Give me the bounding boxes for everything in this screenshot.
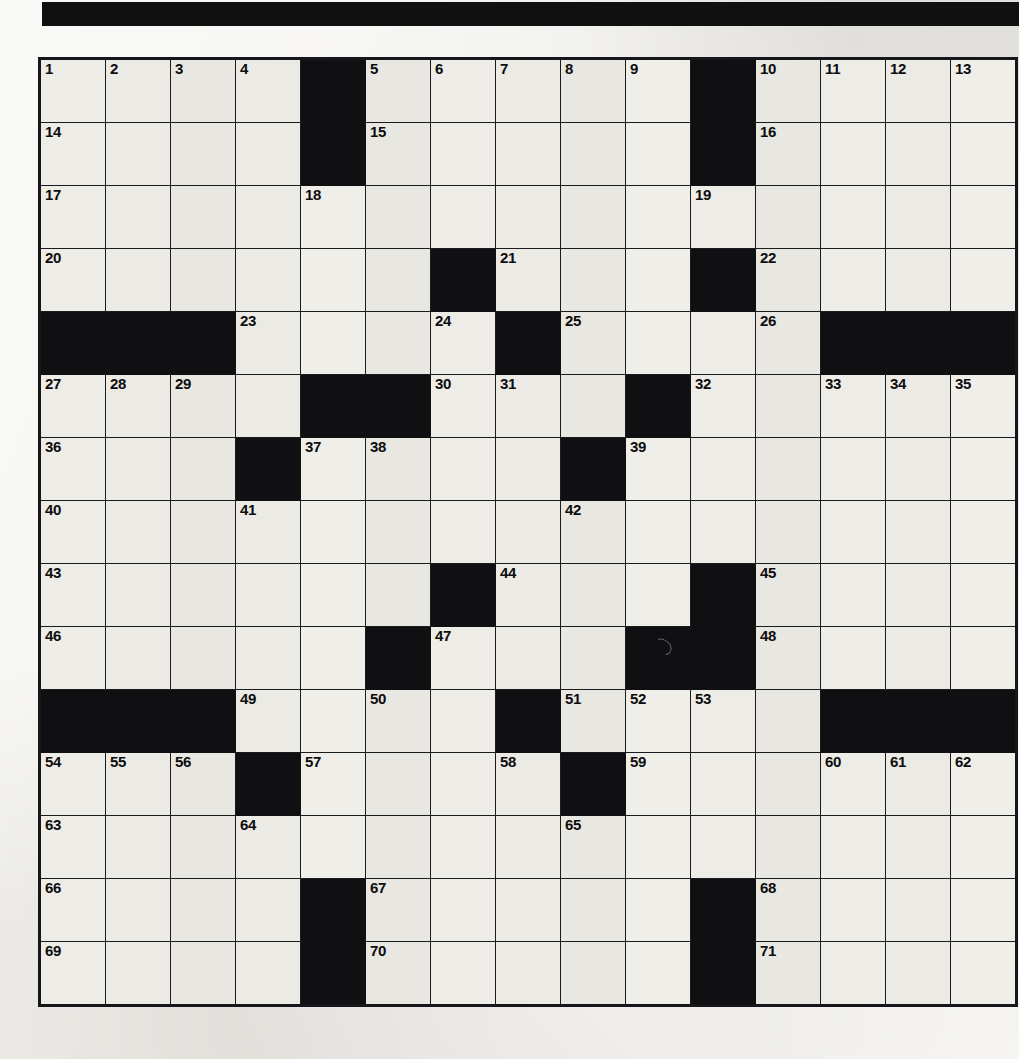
letter-cell[interactable] bbox=[171, 627, 236, 690]
letter-cell[interactable] bbox=[626, 879, 691, 942]
letter-cell[interactable] bbox=[106, 816, 171, 879]
letter-cell[interactable] bbox=[236, 375, 301, 438]
letter-cell[interactable] bbox=[106, 249, 171, 312]
letter-cell[interactable] bbox=[886, 879, 951, 942]
letter-cell[interactable]: 4 bbox=[236, 59, 301, 123]
letter-cell[interactable] bbox=[626, 249, 691, 312]
letter-cell[interactable] bbox=[171, 564, 236, 627]
letter-cell[interactable] bbox=[496, 186, 561, 249]
letter-cell[interactable]: 32 bbox=[691, 375, 756, 438]
letter-cell[interactable]: 5 bbox=[366, 59, 431, 123]
letter-cell[interactable] bbox=[951, 627, 1017, 690]
letter-cell[interactable] bbox=[171, 816, 236, 879]
letter-cell[interactable]: 71 bbox=[756, 942, 821, 1006]
letter-cell[interactable]: 18 bbox=[301, 186, 366, 249]
letter-cell[interactable] bbox=[431, 501, 496, 564]
letter-cell[interactable]: 63 bbox=[40, 816, 106, 879]
letter-cell[interactable] bbox=[106, 501, 171, 564]
letter-cell[interactable]: 24 bbox=[431, 312, 496, 375]
letter-cell[interactable] bbox=[366, 564, 431, 627]
letter-cell[interactable]: 1 bbox=[40, 59, 106, 123]
letter-cell[interactable] bbox=[821, 249, 886, 312]
letter-cell[interactable] bbox=[106, 942, 171, 1006]
letter-cell[interactable]: 31 bbox=[496, 375, 561, 438]
letter-cell[interactable]: 56 bbox=[171, 753, 236, 816]
letter-cell[interactable] bbox=[301, 564, 366, 627]
letter-cell[interactable]: 28 bbox=[106, 375, 171, 438]
letter-cell[interactable]: 34 bbox=[886, 375, 951, 438]
letter-cell[interactable] bbox=[886, 942, 951, 1006]
letter-cell[interactable] bbox=[561, 879, 626, 942]
letter-cell[interactable] bbox=[366, 753, 431, 816]
letter-cell[interactable] bbox=[821, 879, 886, 942]
letter-cell[interactable] bbox=[886, 123, 951, 186]
letter-cell[interactable] bbox=[756, 501, 821, 564]
letter-cell[interactable]: 59 bbox=[626, 753, 691, 816]
letter-cell[interactable]: 49 bbox=[236, 690, 301, 753]
letter-cell[interactable]: 69 bbox=[40, 942, 106, 1006]
letter-cell[interactable] bbox=[821, 816, 886, 879]
letter-cell[interactable] bbox=[626, 816, 691, 879]
letter-cell[interactable] bbox=[171, 879, 236, 942]
letter-cell[interactable] bbox=[691, 816, 756, 879]
letter-cell[interactable]: 9 bbox=[626, 59, 691, 123]
letter-cell[interactable]: 26 bbox=[756, 312, 821, 375]
letter-cell[interactable] bbox=[366, 186, 431, 249]
letter-cell[interactable]: 10 bbox=[756, 59, 821, 123]
letter-cell[interactable] bbox=[886, 627, 951, 690]
letter-cell[interactable]: 17 bbox=[40, 186, 106, 249]
letter-cell[interactable] bbox=[756, 438, 821, 501]
letter-cell[interactable]: 11 bbox=[821, 59, 886, 123]
letter-cell[interactable]: 61 bbox=[886, 753, 951, 816]
letter-cell[interactable] bbox=[496, 942, 561, 1006]
letter-cell[interactable]: 70 bbox=[366, 942, 431, 1006]
letter-cell[interactable] bbox=[561, 627, 626, 690]
letter-cell[interactable] bbox=[301, 312, 366, 375]
letter-cell[interactable] bbox=[951, 186, 1017, 249]
letter-cell[interactable] bbox=[626, 186, 691, 249]
letter-cell[interactable] bbox=[691, 501, 756, 564]
letter-cell[interactable] bbox=[106, 879, 171, 942]
letter-cell[interactable] bbox=[431, 123, 496, 186]
letter-cell[interactable] bbox=[756, 816, 821, 879]
letter-cell[interactable]: 21 bbox=[496, 249, 561, 312]
letter-cell[interactable] bbox=[886, 438, 951, 501]
letter-cell[interactable] bbox=[561, 564, 626, 627]
letter-cell[interactable]: 25 bbox=[561, 312, 626, 375]
letter-cell[interactable]: 46 bbox=[40, 627, 106, 690]
letter-cell[interactable]: 8 bbox=[561, 59, 626, 123]
letter-cell[interactable]: 16 bbox=[756, 123, 821, 186]
letter-cell[interactable]: 57 bbox=[301, 753, 366, 816]
letter-cell[interactable] bbox=[431, 753, 496, 816]
letter-cell[interactable] bbox=[496, 627, 561, 690]
letter-cell[interactable] bbox=[951, 501, 1017, 564]
letter-cell[interactable] bbox=[626, 564, 691, 627]
letter-cell[interactable] bbox=[431, 879, 496, 942]
letter-cell[interactable]: 37 bbox=[301, 438, 366, 501]
letter-cell[interactable] bbox=[106, 438, 171, 501]
letter-cell[interactable] bbox=[626, 942, 691, 1006]
letter-cell[interactable]: 68 bbox=[756, 879, 821, 942]
letter-cell[interactable]: 65 bbox=[561, 816, 626, 879]
letter-cell[interactable]: 27 bbox=[40, 375, 106, 438]
letter-cell[interactable] bbox=[301, 249, 366, 312]
letter-cell[interactable] bbox=[626, 312, 691, 375]
letter-cell[interactable] bbox=[301, 690, 366, 753]
letter-cell[interactable] bbox=[821, 501, 886, 564]
letter-cell[interactable] bbox=[236, 942, 301, 1006]
letter-cell[interactable]: 52 bbox=[626, 690, 691, 753]
letter-cell[interactable]: 53 bbox=[691, 690, 756, 753]
letter-cell[interactable] bbox=[496, 501, 561, 564]
letter-cell[interactable]: 60 bbox=[821, 753, 886, 816]
letter-cell[interactable] bbox=[366, 501, 431, 564]
letter-cell[interactable]: 58 bbox=[496, 753, 561, 816]
letter-cell[interactable] bbox=[821, 186, 886, 249]
letter-cell[interactable] bbox=[496, 816, 561, 879]
letter-cell[interactable]: 40 bbox=[40, 501, 106, 564]
letter-cell[interactable]: 48 bbox=[756, 627, 821, 690]
letter-cell[interactable] bbox=[691, 438, 756, 501]
letter-cell[interactable] bbox=[951, 123, 1017, 186]
letter-cell[interactable]: 30 bbox=[431, 375, 496, 438]
letter-cell[interactable] bbox=[821, 564, 886, 627]
letter-cell[interactable] bbox=[431, 942, 496, 1006]
